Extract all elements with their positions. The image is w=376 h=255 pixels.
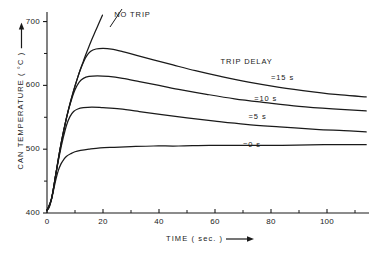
chart-annotation: =0 s: [243, 140, 261, 149]
x-tick-label: 100: [313, 217, 341, 226]
x-axis-arrow-icon: [226, 235, 254, 243]
y-tick-label: 400: [10, 208, 40, 217]
y-axis-title-text: CAN TEMPERATURE ( °C ): [16, 52, 25, 170]
chart-annotation: TRIP DELAY: [221, 57, 273, 66]
series-line: [47, 76, 366, 211]
x-tick-label: 40: [145, 217, 173, 226]
x-axis-title-text: TIME ( sec. ): [166, 234, 223, 243]
x-tick-label: 60: [201, 217, 229, 226]
chart-annotation: NO TRIP: [114, 10, 151, 19]
y-axis-ticks: [43, 22, 47, 213]
chart-figure: 400500600700 020406080100 NO TRIPTRIP DE…: [0, 0, 376, 255]
x-axis-ticks: [47, 209, 355, 213]
x-tick-label: 20: [89, 217, 117, 226]
axis-lines: [47, 12, 369, 213]
data-series-group: [47, 15, 366, 210]
chart-annotation: =10 s: [254, 94, 277, 103]
series-line: [47, 145, 366, 211]
y-axis-arrow-icon: [18, 23, 26, 49]
x-axis-title: TIME ( sec. ): [166, 234, 254, 243]
series-line: [47, 107, 366, 210]
y-axis-title: CAN TEMPERATURE ( °C ): [16, 46, 25, 170]
chart-annotation: =5 s: [249, 112, 267, 121]
x-tick-label: 0: [33, 217, 61, 226]
chart-annotation: =15 s: [271, 73, 294, 82]
x-tick-label: 80: [257, 217, 285, 226]
